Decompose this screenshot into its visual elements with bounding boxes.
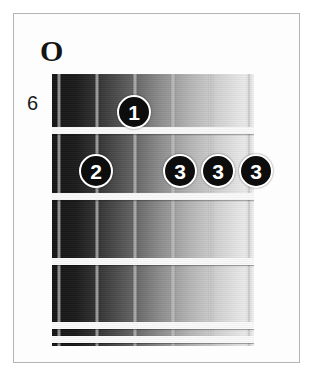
fret-line-5	[52, 336, 254, 343]
fretboard	[52, 74, 254, 346]
string-2	[95, 74, 99, 346]
finger-marker-3: 3	[163, 154, 197, 188]
open-string-marker: O	[40, 36, 63, 66]
chord-diagram: O 6 12333	[0, 0, 315, 383]
string-4	[171, 74, 175, 346]
finger-marker-5: 3	[239, 154, 273, 188]
finger-marker-4: 3	[201, 154, 235, 188]
fret-line-1	[52, 127, 254, 134]
finger-marker-1: 1	[117, 95, 151, 129]
fret-line-4	[52, 322, 254, 329]
fret-position-label: 6	[27, 93, 38, 113]
fret-line-3	[52, 258, 254, 265]
finger-marker-2: 2	[79, 154, 113, 188]
string-6	[247, 74, 251, 346]
string-5	[209, 74, 213, 346]
string-1	[57, 74, 61, 346]
fret-line-2	[52, 193, 254, 200]
